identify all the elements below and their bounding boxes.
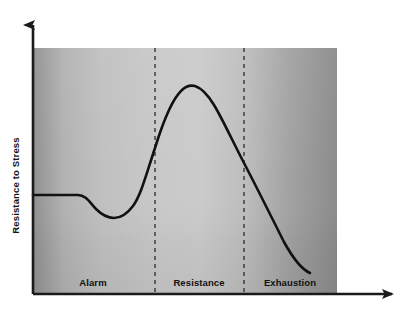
- chart-canvas: [0, 0, 409, 312]
- stage-label-exhaustion: Exhaustion: [264, 277, 316, 288]
- stage-label-alarm: Alarm: [79, 277, 106, 288]
- gas-stress-curve-figure: Resistance to Stress: [0, 0, 409, 312]
- plot-area-shading-overlay: [33, 48, 337, 294]
- stage-label-resistance: Resistance: [173, 277, 224, 288]
